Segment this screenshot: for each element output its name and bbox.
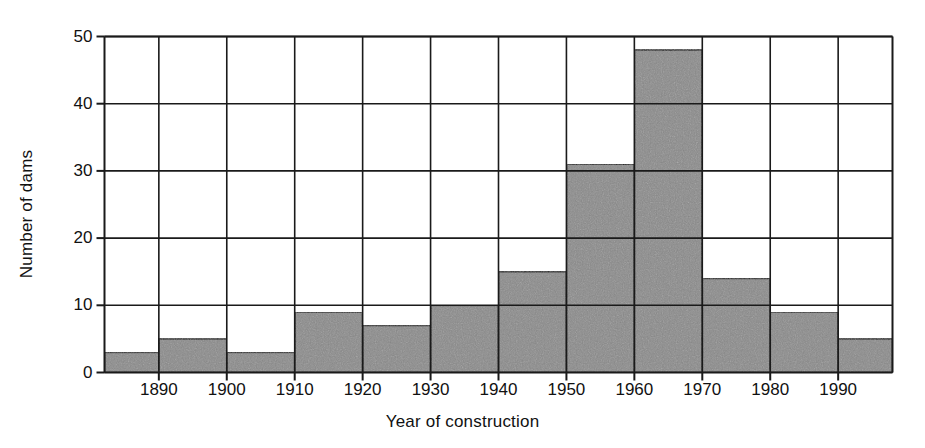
plot-area [0, 0, 925, 448]
bar [227, 352, 295, 372]
bar [770, 312, 838, 372]
bar [105, 352, 159, 372]
bar [363, 325, 431, 372]
bar [431, 305, 499, 372]
bar [566, 164, 634, 372]
bar [838, 339, 892, 373]
bar [634, 50, 702, 373]
bar [159, 339, 227, 373]
bar [702, 278, 770, 372]
bar [295, 312, 363, 372]
bar [499, 272, 567, 373]
histogram-figure: Number of dams Year of construction 0102… [0, 0, 925, 448]
